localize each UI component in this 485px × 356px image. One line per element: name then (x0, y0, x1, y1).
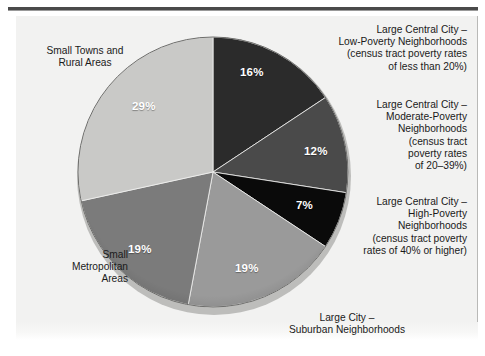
slice-value-large-central-city-moderate-poverty: 12% (304, 145, 328, 157)
callout-small-metropolitan-areas: Small Metropolitan Areas (18, 249, 128, 286)
callout-large-central-city-moderate-poverty: Large Central City – Moderate-Poverty Ne… (335, 99, 467, 172)
callout-small-towns-and-rural-areas: Small Towns and Rural Areas (22, 45, 148, 69)
slice-value-large-city-suburban: 19% (235, 262, 259, 274)
slice-value-small-metropolitan-areas: 19% (128, 243, 152, 255)
slice-value-large-central-city-low-poverty: 16% (240, 66, 264, 78)
slice-value-large-central-city-high-poverty: 7% (296, 199, 313, 211)
slice-value-small-towns-and-rural-areas: 29% (132, 100, 156, 112)
callout-large-central-city-high-poverty: Large Central City – High-Poverty Neighb… (317, 196, 467, 257)
figure-container: 16% 12% 7% 19% 19% 29% Large Central Cit… (0, 0, 485, 356)
pie-chart: 16% 12% 7% 19% 19% 29% Large Central Cit… (0, 0, 485, 356)
callout-large-central-city-low-poverty: Large Central City – Low-Poverty Neighbo… (289, 24, 467, 73)
callout-large-city-suburban: Large City – Suburban Neighborhoods (262, 312, 432, 336)
